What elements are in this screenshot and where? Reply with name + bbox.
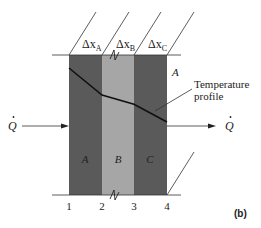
layer-label-a: A: [81, 153, 89, 165]
heat-out-arrowhead: [208, 124, 216, 129]
interface-label-3: 3: [131, 200, 137, 212]
layer-c: [134, 55, 167, 195]
interface-label-1: 1: [66, 200, 72, 212]
area-label: A: [171, 66, 179, 78]
heat-out-dot: [230, 116, 232, 118]
layer-b: [102, 55, 134, 195]
perspective-line-4: [167, 12, 194, 55]
layer-a: [69, 55, 102, 195]
layer-label-c: C: [146, 153, 154, 165]
interface-label-2: 2: [99, 200, 105, 212]
layer-label-b: B: [115, 153, 122, 165]
thickness-label-b: ΔxB: [116, 37, 135, 53]
thickness-label-a: ΔxA: [82, 37, 102, 53]
composite-wall-diagram: ΔxA ΔxB ΔxC Temperature profile A Q Q A …: [0, 0, 261, 228]
heat-in-dot: [13, 116, 15, 118]
heat-in-label: Q: [8, 119, 17, 133]
thickness-label-c: ΔxC: [148, 37, 167, 53]
heat-in-arrowhead: [61, 124, 69, 129]
interface-label-4: 4: [164, 200, 170, 212]
perspective-line-bottom: [167, 152, 194, 195]
profile-label-line2: profile: [194, 90, 223, 102]
profile-label-line1: Temperature: [194, 78, 250, 90]
panel-label: (b): [234, 208, 247, 219]
heat-out-label: Q: [225, 119, 234, 133]
